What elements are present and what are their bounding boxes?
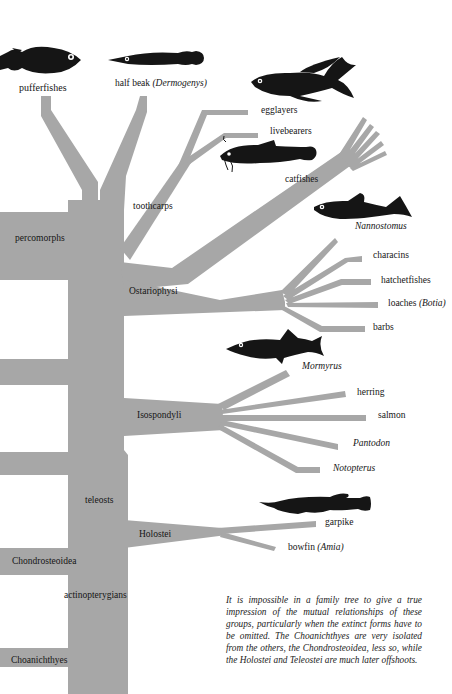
label-pufferfishes: pufferfishes (19, 82, 67, 93)
label-holostei: Holostei (139, 529, 171, 540)
label-catfishes: catfishes (285, 174, 318, 185)
label-ostariophysi: Ostariophysi (129, 286, 178, 297)
label-halfbeak-common: half beak (115, 78, 150, 88)
label-chondrosteoidea: Chondrosteoidea (12, 556, 76, 567)
label-mormyrus: Mormyrus (302, 361, 342, 372)
percomorphs-branch (0, 212, 72, 280)
pufferfish-branch (41, 96, 98, 212)
label-barbs: barbs (373, 322, 394, 333)
mormyrus-icon (226, 329, 324, 364)
label-isospondyli: Isospondyli (137, 410, 181, 421)
label-characins: characins (373, 250, 409, 261)
label-pantodon: Pantodon (353, 438, 390, 449)
main-trunk (68, 200, 128, 694)
label-garpike: garpike (325, 517, 354, 528)
label-toothcarps: toothcarps (133, 201, 173, 212)
label-herring: herring (357, 387, 384, 398)
label-livebearers: livebearers (270, 126, 312, 137)
label-choanichthyes: Choanichthyes (11, 655, 67, 666)
label-hatchetfishes: hatchetfishes (381, 275, 431, 286)
halfbeak-branch (100, 96, 147, 210)
label-loaches-genus: (Botia) (419, 298, 446, 308)
label-percomorphs: percomorphs (15, 233, 65, 244)
caption-text: It is impossible in a family tree to giv… (226, 594, 422, 667)
ostariophysi-fan (280, 238, 378, 332)
catfish-icon (220, 136, 317, 172)
halfbeak-icon (108, 51, 204, 65)
garpike-icon (259, 493, 371, 514)
label-egglayers: egglayers (261, 105, 297, 116)
label-salmon: salmon (378, 410, 405, 421)
label-actinopterygians: actinopterygians (64, 590, 127, 601)
egglayer-icon (251, 57, 356, 102)
label-bowfin-genus: (Amia) (317, 542, 343, 552)
nannostomus-icon (314, 193, 412, 219)
label-halfbeak-genus: (Dermogenys) (152, 78, 206, 88)
label-notopterus: Notopterus (333, 463, 375, 474)
isospondyli-fan (218, 370, 366, 473)
label-nannostomus: Nannostomus (355, 221, 407, 232)
label-loaches: loaches (Botia) (388, 298, 446, 309)
left-branch-mid (0, 359, 72, 385)
label-teleosts: teleosts (85, 495, 114, 506)
label-bowfin-common: bowfin (288, 542, 315, 552)
label-bowfin: bowfin (Amia) (288, 542, 344, 553)
label-loaches-common: loaches (388, 298, 417, 308)
label-halfbeak: half beak (Dermogenys) (115, 78, 207, 89)
left-branch-teleosts (0, 452, 72, 475)
pufferfish-icon (0, 47, 81, 74)
